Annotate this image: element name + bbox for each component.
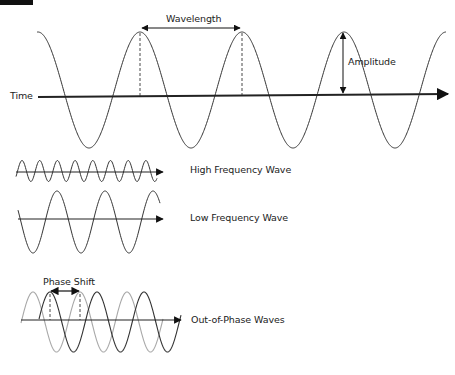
wavelength-label: Wavelength xyxy=(166,13,221,24)
time-axis xyxy=(38,94,448,97)
low-frequency-wave xyxy=(18,191,160,253)
low-frequency-label: Low Frequency Wave xyxy=(190,212,288,223)
time-axis-label: Time xyxy=(10,90,33,101)
out-of-phase-wave-light xyxy=(21,292,163,352)
amplitude-label: Amplitude xyxy=(348,56,396,67)
main-wave xyxy=(37,32,446,148)
out-of-phase-label: Out-of-Phase Waves xyxy=(191,314,285,325)
high-frequency-label: High Frequency Wave xyxy=(190,164,291,175)
phase-shift-label: Phase Shift xyxy=(43,276,95,287)
high-frequency-wave xyxy=(16,161,157,182)
